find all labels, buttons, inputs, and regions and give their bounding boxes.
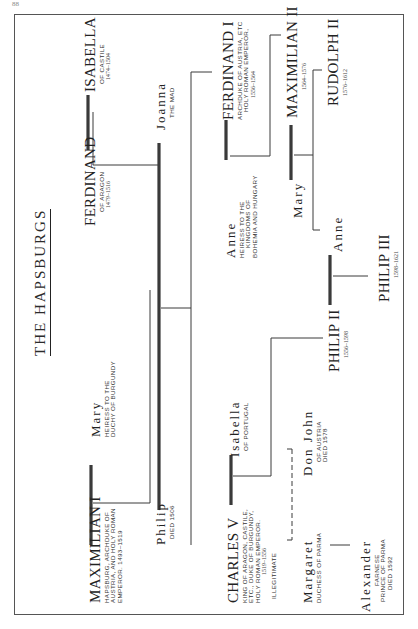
person-isabella-of-portugal: Isabella OF PORTUGAL [226, 401, 249, 457]
person-philip: Philip DIED 1506 [152, 502, 175, 545]
family-tree-lines [0, 0, 418, 629]
person-maximilian-ii: MAXIMILIAN II 1564–1576 [284, 6, 307, 118]
person-ferdinand-of-aragon: FERDINAND OF ARAGON 1479–1516 [82, 137, 112, 226]
person-charles-v: CHARLES V KING OF ARAGON, CASTILE, ETC.,… [225, 509, 277, 603]
person-mary: Mary [289, 182, 306, 218]
person-joanna: Joanna THE MAD [152, 82, 175, 130]
person-mary-of-burgundy: Mary HEIRESS TO THE DUCHY OF BURGUNDY [87, 361, 117, 437]
chart-title: THE HAPSBURGS [33, 209, 51, 356]
person-alexander-farnese: Alexander FARNESE PRINCE OF PARMA DIED 1… [357, 539, 393, 612]
person-rudolph-ii: RUDOLPH II 1576–1612 [325, 18, 348, 106]
person-margaret: Margaret DUCHESS OF PARMA [299, 533, 322, 603]
person-philip-ii: PHILIP II 1556–1598 [326, 309, 349, 372]
person-anne: Anne [329, 216, 346, 252]
person-ferdinand-i: FERDINAND I ARCHDUKE OF AUSTRIA, ETC HOL… [220, 21, 256, 120]
person-don-john: Don John OF AUSTRIA DIED 1578 [299, 410, 329, 476]
person-philip-iii: PHILIP III 1598–1621 [376, 234, 399, 302]
person-maximilian-i: MAXIMILIAN I HAPSBURG, ARCHDUKE OF AUSTR… [87, 497, 123, 604]
person-isabella-of-castile: ISABELLA OF CASTILE 1474–1504 [82, 17, 112, 92]
person-anne-heiress-bohemia-hungary: Anne HEIRESS TO THE KINGDOMS OF BOHEMIA … [222, 175, 258, 258]
